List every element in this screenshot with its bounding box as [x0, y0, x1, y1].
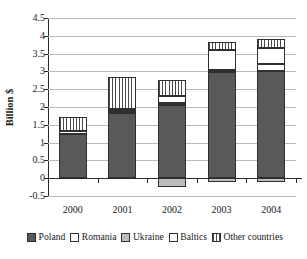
- bar-stack: [59, 18, 87, 196]
- bar-segment: [108, 109, 136, 111]
- gridline: [48, 196, 296, 197]
- bar-segment: [158, 103, 186, 105]
- bar-segment: [208, 50, 236, 70]
- x-tick-mark: [296, 178, 297, 183]
- legend-item-other-countries[interactable]: Other countries: [212, 232, 283, 242]
- bar-stack: [257, 18, 285, 196]
- y-tick-label: -0.5: [15, 191, 45, 201]
- legend-item-poland[interactable]: Poland: [27, 232, 65, 242]
- bar-segment: [158, 80, 186, 95]
- y-tick-label: 2: [15, 102, 45, 112]
- x-tick-mark: [246, 178, 247, 183]
- y-tick-mark: [44, 143, 48, 144]
- x-tick-label: 2001: [98, 204, 146, 215]
- x-tick-label: 2004: [247, 204, 295, 215]
- legend-swatch-icon: [212, 233, 221, 242]
- legend-swatch-icon: [70, 233, 79, 242]
- legend-item-romania[interactable]: Romania: [70, 232, 116, 242]
- legend-label: Other countries: [223, 232, 282, 242]
- bar-segment: [158, 105, 186, 179]
- bar-segment: [108, 77, 136, 108]
- stacked-bar-chart: Billion $ 4.543.532.521.510.50-0.5 20002…: [0, 0, 307, 259]
- bar-segment: [208, 72, 236, 178]
- bar-segment: [208, 70, 236, 72]
- legend-label: Romania: [82, 232, 117, 242]
- bar-segment: [257, 39, 285, 48]
- y-axis-title-text: Billion $: [5, 88, 16, 126]
- bar-segment: [257, 48, 285, 63]
- y-tick-mark: [44, 107, 48, 108]
- y-tick-label: 4: [15, 31, 45, 41]
- x-tick-mark: [48, 178, 49, 183]
- legend-swatch-icon: [121, 233, 130, 242]
- bar-segment: [108, 111, 136, 113]
- legend-label: Ukraine: [133, 232, 164, 242]
- legend-item-ukraine[interactable]: Ukraine: [121, 232, 163, 242]
- x-tick-label: 2000: [49, 204, 97, 215]
- bar-stack: [108, 18, 136, 196]
- y-tick-mark: [44, 160, 48, 161]
- chart-legend: PolandRomaniaUkraineBalticsOther countri…: [16, 229, 294, 245]
- y-tick-mark: [44, 36, 48, 37]
- y-tick-mark: [44, 54, 48, 55]
- y-tick-mark: [44, 196, 48, 197]
- y-tick-mark: [44, 71, 48, 72]
- bar-segment: [158, 178, 186, 187]
- legend-item-baltics[interactable]: Baltics: [169, 232, 207, 242]
- y-tick-label: 0.5: [15, 155, 45, 165]
- x-tick-label: 2003: [198, 204, 246, 215]
- x-tick-label: 2002: [148, 204, 196, 215]
- bar-segment: [59, 134, 87, 179]
- bar-segment: [257, 71, 285, 178]
- x-tick-mark: [147, 178, 148, 183]
- x-tick-mark: [98, 178, 99, 183]
- bar-segment: [108, 113, 136, 178]
- y-tick-label: 0: [15, 173, 45, 183]
- y-tick-label: 4.5: [15, 13, 45, 23]
- legend-swatch-icon: [169, 233, 178, 242]
- y-tick-mark: [44, 89, 48, 90]
- y-tick-label: 2.5: [15, 84, 45, 94]
- bar-stack: [208, 18, 236, 196]
- legend-label: Poland: [39, 232, 66, 242]
- bar-stack: [158, 18, 186, 196]
- legend-label: Baltics: [180, 232, 207, 242]
- x-tick-mark: [197, 178, 198, 183]
- bar-segment: [59, 117, 87, 131]
- y-tick-label: 1: [15, 138, 45, 148]
- legend-swatch-icon: [27, 233, 36, 242]
- y-tick-mark: [44, 18, 48, 19]
- bar-segment: [158, 96, 186, 103]
- y-tick-label: 1.5: [15, 120, 45, 130]
- y-tick-label: 3: [15, 66, 45, 76]
- bar-segment: [208, 178, 236, 182]
- y-tick-mark: [44, 125, 48, 126]
- bar-segment: [208, 42, 236, 50]
- bar-segment: [257, 64, 285, 72]
- plot-area: 4.543.532.521.510.50-0.5 200020012002200…: [48, 18, 296, 196]
- bar-segment: [59, 131, 87, 134]
- bar-segment: [257, 178, 285, 182]
- y-tick-label: 3.5: [15, 49, 45, 59]
